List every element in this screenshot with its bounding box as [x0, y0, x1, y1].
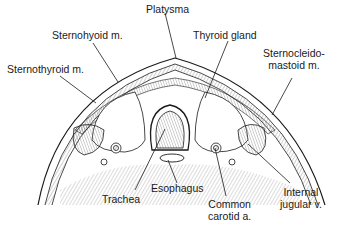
label-sternocleidomastoid-line2: mastoid m. [268, 59, 319, 71]
label-platysma: Platysma [146, 3, 189, 15]
label-sternothyroid: Sternothyroid m. [7, 63, 84, 75]
label-internal-jugular: Internal jugular v. [280, 186, 322, 210]
label-common-carotid-line2: carotid a. [208, 210, 251, 222]
label-sternocleidomastoid: Sternocleido- mastoid m. [263, 47, 325, 71]
label-thyroid-gland: Thyroid gland [193, 29, 257, 41]
esophagus [160, 154, 184, 162]
label-internal-jugular-line1: Internal [283, 186, 318, 198]
label-sternohyoid: Sternohyoid m. [52, 29, 123, 41]
label-sternocleidomastoid-line1: Sternocleido- [263, 47, 325, 59]
label-common-carotid-line1: Common [208, 198, 251, 210]
trachea [150, 105, 189, 150]
label-internal-jugular-line2: jugular v. [280, 198, 322, 210]
label-trachea: Trachea [102, 193, 140, 205]
label-common-carotid: Common carotid a. [208, 198, 251, 222]
label-esophagus: Esophagus [151, 182, 204, 194]
